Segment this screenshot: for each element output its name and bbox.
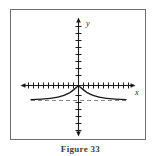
x-axis-label: x	[134, 88, 139, 97]
y-axis-arrow-down	[76, 132, 81, 137]
x-axis-arrow-left	[21, 83, 26, 88]
y-axis	[76, 18, 82, 137]
y-axis-label: y	[85, 19, 90, 28]
figure-caption: Figure 33	[0, 144, 161, 155]
y-axis-arrow-up	[76, 18, 81, 23]
figure-container: y x Figure 33	[0, 0, 161, 156]
coordinate-plot: y x	[0, 0, 161, 156]
